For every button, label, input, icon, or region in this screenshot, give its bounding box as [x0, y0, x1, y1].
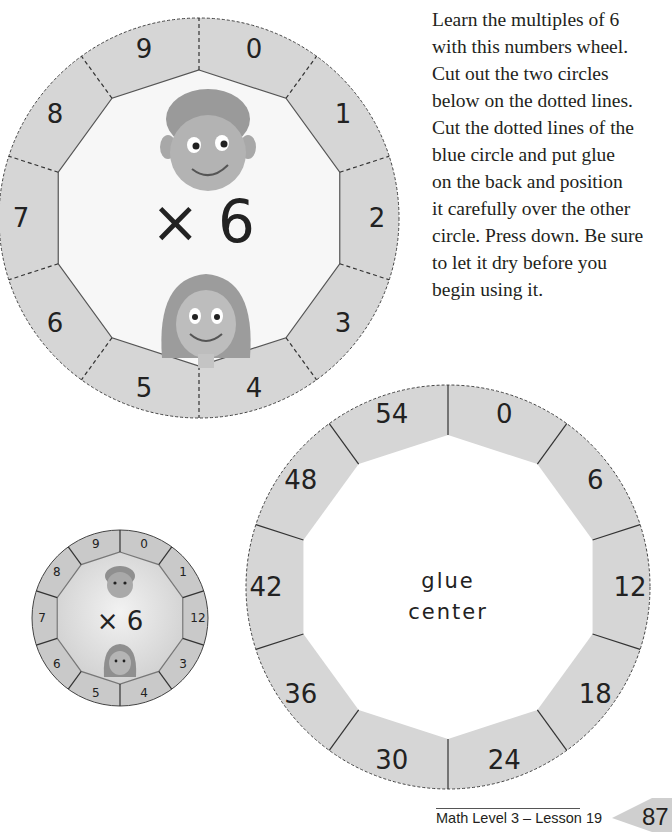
top-wheel-segment-label: 2: [369, 203, 386, 233]
top-wheel-segment-label: 1: [335, 99, 352, 129]
instruction-line: blue circle and put glue: [432, 141, 662, 168]
instructions-text: Learn the multiples of 6 with this numbe…: [432, 6, 662, 303]
bottom-wheel-segment-label: 24: [488, 745, 521, 775]
instruction-line: Cut out the two circles: [432, 60, 662, 87]
bottom-wheel-segment-label: 42: [249, 572, 282, 602]
photo-segment-label: 1: [179, 565, 187, 579]
instruction-line: Cut the dotted lines of the: [432, 114, 662, 141]
photo-segment-label: 8: [53, 565, 61, 579]
glue-label: glue: [421, 569, 474, 593]
instruction-line: Learn the multiples of 6: [432, 6, 662, 33]
bottom-wheel-segment-label: 18: [579, 679, 612, 709]
photo-segment-label: 3: [179, 657, 187, 671]
top-wheel-segment-label: 9: [136, 34, 153, 64]
bottom-wheel-segment-label: 0: [496, 399, 513, 429]
photo-segment-label: 0: [140, 537, 148, 551]
instruction-line: on the back and position: [432, 168, 662, 195]
instruction-line: with this numbers wheel.: [432, 33, 662, 60]
top-wheel-segment-label: 7: [13, 203, 30, 233]
bottom-wheel-segment-label: 36: [284, 679, 317, 709]
instruction-line: to let it dry before you: [432, 249, 662, 276]
instruction-line: begin using it.: [432, 276, 662, 303]
photo-segment-label: 5: [92, 686, 100, 700]
footer-lesson-title: Math Level 3 – Lesson 19: [436, 808, 580, 826]
bottom-wheel-segment-label: 12: [613, 572, 646, 602]
photo-segment-label: 6: [53, 657, 61, 671]
photo-segment-label: 4: [140, 686, 148, 700]
bottom-wheel: 061218243036424854 glue center: [230, 370, 659, 800]
photo-segment-label: 7: [38, 611, 46, 625]
bottom-wheel-segment-label: 6: [587, 465, 604, 495]
instruction-line: circle. Press down. Be sure: [432, 222, 662, 249]
instruction-line: below on the dotted lines.: [432, 87, 662, 114]
top-wheel-segment-label: 6: [47, 308, 64, 338]
photo-segment-label: 12: [190, 611, 205, 625]
bottom-wheel-segment-label: 54: [375, 399, 408, 429]
photo-segment-label: 9: [92, 537, 100, 551]
multiplier-label: × 6: [151, 188, 255, 256]
assembled-wheel-photo: 01123456789 × 6: [28, 524, 212, 712]
top-wheel-segment-label: 5: [136, 373, 153, 403]
bottom-wheel-segment-label: 48: [284, 465, 317, 495]
center-label: center: [408, 600, 488, 624]
top-wheel-segment-label: 8: [47, 99, 64, 129]
top-wheel-segment-label: 3: [335, 308, 352, 338]
page-number: 87: [642, 803, 669, 831]
top-wheel-segment-label: 0: [246, 34, 263, 64]
photo-multiplier-label: × 6: [97, 606, 144, 636]
bottom-wheel-segment-label: 30: [375, 745, 408, 775]
instruction-line: it carefully over the other: [432, 195, 662, 222]
